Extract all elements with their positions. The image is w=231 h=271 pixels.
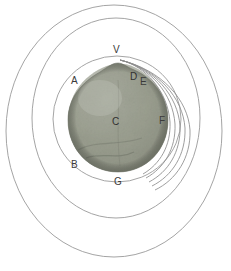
label-V: V — [113, 45, 120, 55]
label-E: E — [140, 77, 147, 87]
label-C: C — [112, 117, 119, 127]
figure-diagram — [0, 0, 231, 271]
label-F: F — [159, 116, 165, 126]
label-D: D — [130, 72, 137, 82]
figure-container: V A D E C F B G — [0, 0, 231, 271]
label-A: A — [71, 76, 78, 86]
label-G: G — [114, 177, 122, 187]
label-B: B — [71, 160, 78, 170]
